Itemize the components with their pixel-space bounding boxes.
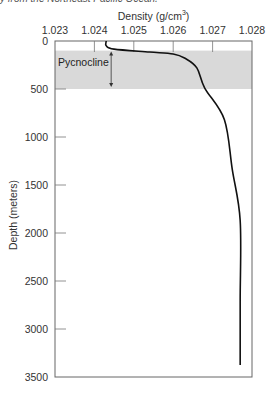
pycnocline-label: Pycnocline — [58, 56, 109, 68]
density-curve — [106, 41, 241, 365]
plot-area — [0, 0, 274, 394]
plot-frame — [55, 41, 252, 377]
